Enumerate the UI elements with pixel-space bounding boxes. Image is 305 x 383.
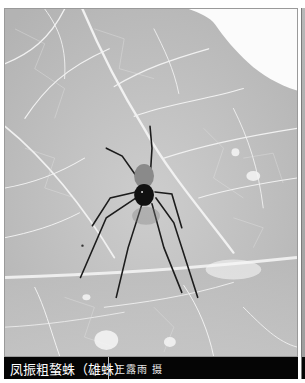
spider-shadow (132, 207, 160, 225)
leaf-image (5, 9, 297, 356)
spider-photo (4, 8, 298, 357)
adjacent-page-edge (301, 8, 305, 379)
spider-abdomen (134, 184, 154, 206)
photo-credit: 王露雨 摄 (109, 361, 163, 376)
species-name: 凤振粗螯蛛（雄蛛） (4, 359, 108, 378)
figure-caption: 凤振粗螯蛛（雄蛛） 王露雨 摄 (4, 357, 298, 379)
adjacent-page-caption-edge (302, 357, 305, 379)
